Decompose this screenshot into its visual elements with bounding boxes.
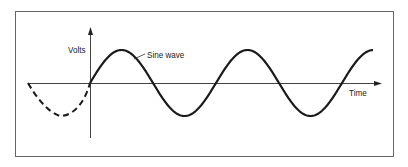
y-axis-label: Volts bbox=[68, 44, 86, 55]
y-axis-arrow-icon bbox=[88, 27, 93, 35]
dashed-sine-segment bbox=[28, 83, 90, 116]
curve-label: Sine wave bbox=[147, 49, 184, 60]
x-axis-label: Time bbox=[349, 87, 367, 98]
sine-wave-diagram bbox=[0, 0, 408, 167]
x-axis-arrow-icon bbox=[374, 81, 382, 86]
